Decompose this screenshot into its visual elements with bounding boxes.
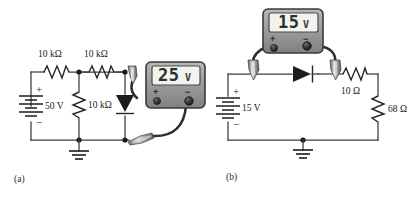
battery-a-minus-sign: − [36, 116, 42, 128]
meter-a-unit: V [185, 72, 191, 83]
panel-b-caption: (b) [226, 172, 237, 183]
probe-clip-a-positive [128, 66, 137, 84]
battery-a-label: 50 V [45, 101, 64, 111]
resistor-r3 [73, 92, 85, 118]
meter-b[interactable]: 15 V + − [263, 9, 323, 53]
panel-a: + − 50 V 10 kΩ 10 kΩ 10 kΩ [14, 49, 205, 185]
resistor-r5-label: 68 Ω [388, 104, 407, 114]
battery-15v [216, 98, 240, 118]
meter-b-unit: V [303, 19, 309, 30]
meter-a-minus-label: − [185, 87, 190, 97]
node-a-top-mid [76, 69, 81, 74]
meter-a-positive-jack[interactable] [153, 97, 160, 104]
meter-b-positive-jack[interactable] [270, 44, 277, 51]
ground-symbol-b [293, 140, 313, 158]
panel-b: + − 15 V 10 Ω 68 Ω [216, 9, 407, 183]
probe-clip-a-negative [128, 133, 154, 145]
meter-a-negative-jack[interactable] [185, 97, 193, 105]
meter-a-plus-label: + [153, 87, 158, 97]
battery-b-minus-sign: − [233, 118, 239, 130]
node-a-top-right [122, 69, 127, 74]
resistor-r5 [372, 96, 384, 122]
meter-b-plus-label: + [270, 34, 275, 44]
resistor-r3-label: 10 kΩ [88, 100, 112, 110]
meter-a[interactable]: 25 V + − [146, 62, 205, 108]
probe-clip-b-positive [248, 60, 259, 80]
resistor-r4-label: 10 Ω [341, 86, 360, 96]
resistor-r1 [44, 66, 69, 78]
circuit-figure: + − 50 V 10 kΩ 10 kΩ 10 kΩ [0, 0, 413, 208]
probe-clip-b-negative [330, 60, 341, 80]
ground-symbol-a [69, 140, 89, 159]
battery-a-plus-sign: + [36, 83, 42, 95]
battery-b-label: 15 V [242, 103, 261, 113]
resistor-r2-label: 10 kΩ [84, 49, 108, 59]
resistor-r1-label: 10 kΩ [38, 49, 62, 59]
battery-b-plus-sign: + [233, 85, 239, 97]
meter-b-reading: 15 [278, 12, 299, 32]
figure-root: + − 50 V 10 kΩ 10 kΩ 10 kΩ [0, 0, 413, 208]
meter-b-negative-jack[interactable] [303, 42, 311, 50]
resistor-r4 [343, 68, 367, 80]
node-a-bottom-right [122, 137, 127, 142]
diode-d1 [116, 95, 134, 114]
diode-d2 [293, 66, 318, 83]
meter-a-reading: 25 [158, 65, 179, 85]
panel-a-caption: (a) [14, 174, 25, 185]
